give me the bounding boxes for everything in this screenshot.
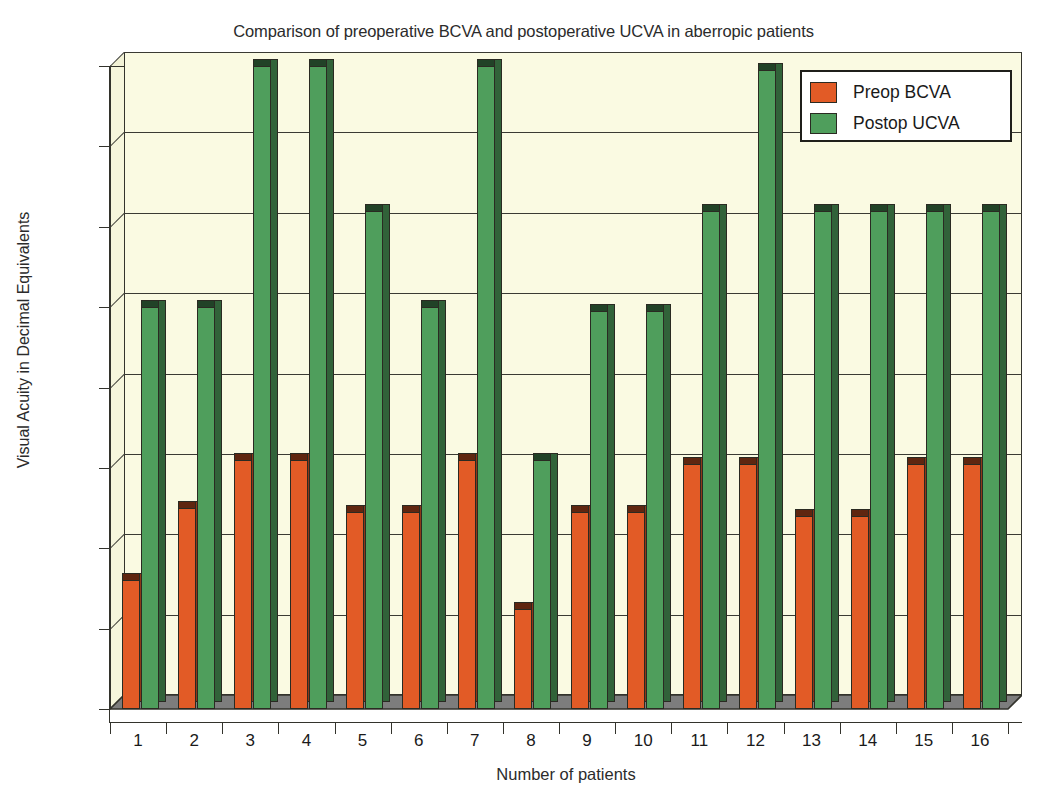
bar-front bbox=[739, 464, 757, 709]
y-tick-mark bbox=[99, 548, 110, 549]
bar-postop-ucva-4 bbox=[309, 66, 327, 709]
bar-preop-bcva-14 bbox=[851, 516, 869, 709]
bar-side-face bbox=[775, 63, 783, 702]
bar-front bbox=[702, 211, 720, 709]
bar-front bbox=[122, 580, 140, 709]
legend-label-preop: Preop BCVA bbox=[853, 82, 951, 103]
bar-preop-bcva-1 bbox=[122, 580, 140, 709]
bar-front bbox=[365, 211, 383, 709]
bar-preop-bcva-10 bbox=[627, 512, 645, 709]
x-tick-mark bbox=[391, 722, 392, 734]
y-tick-mark bbox=[99, 66, 110, 67]
x-tick-label: 9 bbox=[567, 731, 607, 751]
bar-postop-ucva-16 bbox=[982, 211, 1000, 709]
x-tick-mark bbox=[784, 722, 785, 734]
x-tick-label: 4 bbox=[286, 731, 326, 751]
bar-postop-ucva-10 bbox=[646, 311, 664, 709]
bar-side-face bbox=[550, 453, 558, 702]
x-tick-label: 11 bbox=[679, 731, 719, 751]
x-tick-mark bbox=[447, 722, 448, 734]
x-tick-label: 6 bbox=[399, 731, 439, 751]
x-tick-mark bbox=[110, 722, 111, 734]
bar-postop-ucva-5 bbox=[365, 211, 383, 709]
bar-side-face bbox=[270, 59, 278, 702]
plot-area bbox=[110, 52, 1022, 724]
bar-side-face bbox=[831, 204, 839, 702]
bar-front bbox=[234, 460, 252, 709]
bar-postop-ucva-12 bbox=[758, 70, 776, 709]
bar-preop-bcva-15 bbox=[907, 464, 925, 709]
bar-preop-bcva-3 bbox=[234, 460, 252, 709]
x-tick-mark bbox=[896, 722, 897, 734]
bar-preop-bcva-2 bbox=[178, 508, 196, 709]
x-tick-label: 3 bbox=[230, 731, 270, 751]
legend-item-preop[interactable]: Preop BCVA bbox=[810, 77, 1010, 108]
x-axis-title: Number of patients bbox=[110, 765, 1022, 784]
bar-front bbox=[458, 460, 476, 709]
bar-front bbox=[346, 512, 364, 709]
chart-title: Comparison of preoperative BCVA and post… bbox=[0, 22, 1047, 41]
x-tick-label: 15 bbox=[904, 731, 944, 751]
bar-front bbox=[290, 460, 308, 709]
bar-front bbox=[870, 211, 888, 709]
bar-front bbox=[253, 66, 271, 709]
y-tick-mark bbox=[99, 307, 110, 308]
legend-swatch-postop bbox=[810, 113, 837, 134]
bar-front bbox=[646, 311, 664, 709]
x-tick-mark bbox=[615, 722, 616, 734]
x-tick-mark bbox=[727, 722, 728, 734]
bar-preop-bcva-16 bbox=[963, 464, 981, 709]
bar-front bbox=[309, 66, 327, 709]
x-tick-label: 8 bbox=[511, 731, 551, 751]
bar-front bbox=[477, 66, 495, 709]
bar-front bbox=[627, 512, 645, 709]
bar-side-face bbox=[719, 204, 727, 702]
x-tick-mark bbox=[503, 722, 504, 734]
bar-front bbox=[758, 70, 776, 709]
bar-chart: Comparison of preoperative BCVA and post… bbox=[0, 0, 1047, 801]
bar-postop-ucva-6 bbox=[421, 307, 439, 709]
bar-side-face bbox=[158, 300, 166, 702]
x-tick-mark bbox=[671, 722, 672, 734]
bar-front bbox=[590, 311, 608, 709]
x-tick-mark bbox=[222, 722, 223, 734]
bar-postop-ucva-1 bbox=[141, 307, 159, 709]
y-axis-line bbox=[109, 66, 110, 723]
bar-side-face bbox=[214, 300, 222, 702]
bar-front bbox=[851, 516, 869, 709]
y-tick-mark bbox=[99, 146, 110, 147]
bar-side-face bbox=[438, 300, 446, 702]
y-tick-mark bbox=[99, 468, 110, 469]
y-tick-mark bbox=[99, 388, 110, 389]
bar-front bbox=[141, 307, 159, 709]
bar-side-face bbox=[326, 59, 334, 702]
bar-side-face bbox=[887, 204, 895, 702]
bar-postop-ucva-8 bbox=[533, 460, 551, 709]
bar-preop-bcva-12 bbox=[739, 464, 757, 709]
bar-side-face bbox=[663, 304, 671, 702]
x-tick-label: 14 bbox=[848, 731, 888, 751]
bar-side-face bbox=[382, 204, 390, 702]
bar-front bbox=[814, 211, 832, 709]
legend-item-postop[interactable]: Postop UCVA bbox=[810, 108, 1010, 139]
bar-preop-bcva-9 bbox=[571, 512, 589, 709]
bar-front bbox=[907, 464, 925, 709]
x-tick-mark bbox=[952, 722, 953, 734]
bar-front bbox=[197, 307, 215, 709]
legend-swatch-preop bbox=[810, 82, 837, 103]
bar-preop-bcva-13 bbox=[795, 516, 813, 709]
bar-postop-ucva-2 bbox=[197, 307, 215, 709]
x-tick-mark bbox=[278, 722, 279, 734]
bar-postop-ucva-9 bbox=[590, 311, 608, 709]
bar-postop-ucva-14 bbox=[870, 211, 888, 709]
x-tick-label: 12 bbox=[735, 731, 775, 751]
bar-front bbox=[982, 211, 1000, 709]
y-tick-mark bbox=[99, 709, 110, 710]
bar-front bbox=[178, 508, 196, 709]
x-tick-label: 2 bbox=[174, 731, 214, 751]
bar-side-face bbox=[494, 59, 502, 702]
bar-front bbox=[571, 512, 589, 709]
bar-postop-ucva-7 bbox=[477, 66, 495, 709]
bar-side-face bbox=[943, 204, 951, 702]
x-tick-label: 10 bbox=[623, 731, 663, 751]
